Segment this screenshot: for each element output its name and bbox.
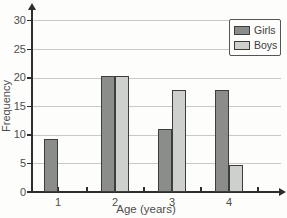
- girls-swatch-icon: [234, 26, 250, 35]
- y-tick-25: [27, 49, 31, 51]
- x-axis-arrow-icon: [279, 188, 286, 196]
- gridline-15: [33, 106, 281, 107]
- y-tick-label-5: 5: [2, 158, 26, 169]
- legend-item-girls: Girls: [234, 24, 276, 37]
- y-tick-20: [27, 77, 31, 79]
- gridline-20: [33, 78, 281, 79]
- y-axis: [31, 9, 33, 193]
- x-axis-title: Age (years): [32, 203, 260, 215]
- y-axis-title: Frequency: [0, 71, 12, 141]
- bar-boys-age-3: [172, 90, 186, 192]
- y-tick-label-25: 25: [2, 44, 26, 55]
- bar-girls-age-4: [215, 90, 229, 192]
- y-axis-arrow-icon: [28, 3, 36, 10]
- y-tick-0: [27, 192, 31, 194]
- legend: Girls Boys: [229, 19, 281, 56]
- x-minor-tick-3: [200, 187, 202, 191]
- y-tick-10: [27, 134, 31, 136]
- x-minor-tick-1: [86, 187, 88, 191]
- boys-swatch-icon: [234, 41, 250, 50]
- bar-girls-age-3: [158, 129, 172, 192]
- y-tick-label-30: 30: [2, 15, 26, 26]
- x-minor-tick-4: [257, 187, 259, 191]
- y-tick-5: [27, 163, 31, 165]
- legend-label-girls: Girls: [254, 25, 276, 36]
- bar-boys-age-4: [229, 165, 243, 192]
- bar-girls-age-1: [44, 139, 58, 192]
- legend-label-boys: Boys: [254, 40, 277, 51]
- x-minor-tick-2: [143, 187, 145, 191]
- y-tick-15: [27, 106, 31, 108]
- gridline-5: [33, 163, 281, 164]
- bar-girls-age-2: [101, 76, 115, 192]
- y-tick-label-0: 0: [2, 187, 26, 198]
- legend-item-boys: Boys: [234, 39, 276, 52]
- bar-boys-age-2: [115, 76, 129, 192]
- frequency-by-age-bar-chart: 051015202530 1234 Frequency Age (years) …: [0, 0, 287, 218]
- y-tick-30: [27, 20, 31, 22]
- gridline-10: [33, 135, 281, 136]
